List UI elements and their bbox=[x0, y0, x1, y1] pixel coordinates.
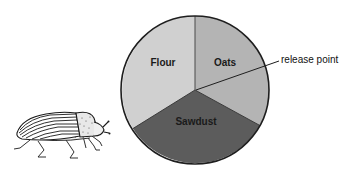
label-flour: Flour bbox=[151, 57, 176, 68]
pie-chamber: Flour Oats Sawdust bbox=[121, 16, 269, 164]
choice-chamber-diagram: Flour Oats Sawdust release point bbox=[0, 0, 352, 170]
label-oats: Oats bbox=[214, 57, 237, 68]
beetle-icon bbox=[14, 112, 111, 158]
release-point-label: release point bbox=[281, 54, 338, 65]
label-sawdust: Sawdust bbox=[175, 116, 217, 127]
